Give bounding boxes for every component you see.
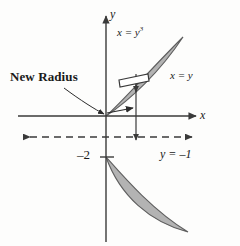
y-axis-label: y <box>110 8 115 20</box>
curve-label-cubic: x = y3 <box>117 26 143 38</box>
new-radius-leader-line <box>64 88 104 114</box>
horizontal-radius-arrow <box>107 108 133 113</box>
curve-label-cubic-exponent: 3 <box>140 25 144 33</box>
x-axis-label: x <box>200 109 205 121</box>
axis-of-revolution-label: y = –1 <box>160 148 191 160</box>
shaded-region-lower <box>106 157 188 232</box>
y-tick-label-minus2: –2 <box>77 148 90 161</box>
figure-canvas: y x x = y3 x = y New Radius –2 y = –1 <box>0 0 240 246</box>
new-radius-label: New Radius <box>10 70 78 83</box>
representative-disk-rectangle <box>119 74 149 87</box>
curve-label-linear: x = y <box>170 70 193 81</box>
curve-label-cubic-text: x = y <box>117 26 140 38</box>
